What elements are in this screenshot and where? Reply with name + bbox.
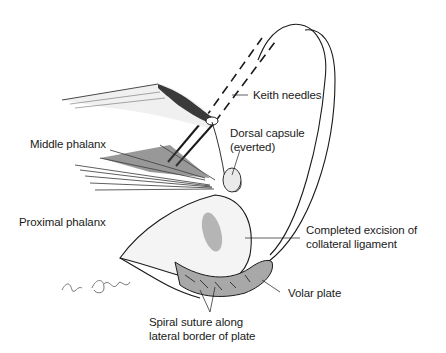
label-dorsal-capsule-line1: Dorsal capsule (230, 127, 305, 140)
label-collateral-line1: Completed excision of (306, 224, 417, 237)
label-dorsal-capsule-line2: (everted) (230, 141, 275, 154)
label-keith-needles: Keith needles (253, 89, 321, 102)
anatomy-drawing (0, 0, 446, 353)
label-suture-line1: Spiral suture along (149, 316, 243, 329)
label-collateral-line2: collateral ligament (306, 238, 397, 251)
label-volar-plate: Volar plate (288, 287, 341, 300)
artist-signature (62, 281, 130, 293)
label-proximal-phalanx: Proximal phalanx (19, 216, 106, 229)
label-middle-phalanx: Middle phalanx (30, 138, 106, 151)
keith-needles (205, 38, 275, 122)
middle-phalanx-shape (62, 84, 218, 128)
diagram-canvas: Keith needles Dorsal capsule (everted) M… (0, 0, 446, 353)
label-suture-line2: lateral border of plate (149, 330, 255, 343)
